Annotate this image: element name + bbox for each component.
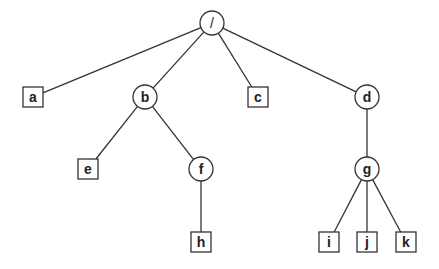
node-label: f: [199, 161, 204, 177]
node-label: g: [363, 161, 372, 177]
node-label: h: [197, 234, 206, 250]
node-k: k: [396, 232, 416, 252]
node-label: d: [363, 89, 372, 105]
node-label: a: [29, 89, 37, 105]
tree-svg: /abcdefghijk: [0, 0, 439, 269]
node-label: /: [210, 15, 214, 31]
edge-root-c: [218, 33, 251, 87]
edge-root-b: [153, 32, 204, 88]
edge-root-a: [43, 28, 201, 93]
node-e: e: [78, 159, 98, 179]
node-label: k: [402, 234, 410, 250]
node-c: c: [248, 87, 268, 107]
node-root: /: [200, 11, 224, 35]
tree-diagram: /abcdefghijk: [0, 0, 439, 269]
edge-root-d: [223, 28, 356, 92]
node-h: h: [191, 232, 211, 252]
node-g: g: [355, 157, 379, 181]
node-i: i: [319, 232, 339, 252]
node-label: j: [364, 234, 369, 250]
node-label: i: [327, 234, 331, 250]
edge-g-k: [373, 180, 401, 232]
node-a: a: [23, 87, 43, 107]
edges-group: [43, 28, 401, 232]
edge-b-f: [152, 106, 193, 159]
edge-g-i: [334, 180, 361, 232]
node-label: e: [84, 161, 92, 177]
node-label: b: [141, 89, 150, 105]
node-label: c: [254, 89, 262, 105]
edge-b-e: [96, 106, 138, 159]
node-j: j: [357, 232, 377, 252]
node-b: b: [133, 85, 157, 109]
node-d: d: [355, 85, 379, 109]
nodes-group: /abcdefghijk: [23, 11, 416, 252]
node-f: f: [189, 157, 213, 181]
